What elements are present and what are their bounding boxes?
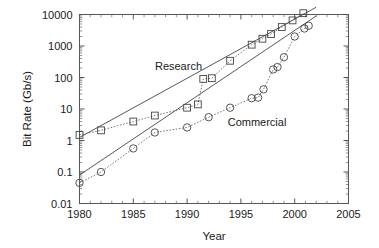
plot-frame	[80, 15, 349, 204]
series-label-research: Research	[155, 60, 202, 72]
y-axis-title: Bit Rate (Gb/s)	[21, 71, 33, 147]
data-point-commercial	[280, 54, 287, 61]
data-point-commercial	[260, 86, 267, 93]
chart-figure: 198019851990199520002005 0.010.111010010…	[0, 0, 379, 248]
x-tick-label: 2000	[282, 208, 306, 220]
data-point-research	[184, 104, 191, 111]
x-tick-label: 1990	[175, 208, 199, 220]
trend-line-commercial	[80, 16, 317, 175]
x-axis-tick-labels: 198019851990199520002005	[67, 208, 360, 220]
data-point-commercial	[97, 168, 104, 175]
x-axis-title: Year	[202, 230, 225, 242]
y-tick-label: 0.01	[51, 198, 72, 210]
y-tick-label: 1	[66, 135, 72, 147]
series-label-commercial: Commercial	[228, 116, 287, 128]
y-tick-label: 100	[54, 72, 72, 84]
y-axis-tick-labels: 0.010.1110100100010000	[42, 9, 73, 210]
y-tick-label: 10	[60, 103, 72, 115]
x-tick-label: 1985	[121, 208, 145, 220]
x-tick-label: 1995	[229, 208, 253, 220]
data-point-commercial	[269, 66, 276, 73]
y-tick-label: 0.1	[57, 166, 72, 178]
data-point-research	[227, 57, 234, 64]
data-point-commercial	[183, 124, 190, 131]
y-tick-label: 10000	[42, 9, 73, 21]
y-tick-label: 1000	[48, 40, 72, 52]
x-tick-label: 2005	[336, 208, 360, 220]
axis-ticks	[80, 15, 349, 204]
series-annotations: ResearchCommercial	[155, 60, 286, 127]
bit-rate-vs-year-chart: 198019851990199520002005 0.010.111010010…	[0, 0, 379, 248]
data-point-research	[98, 127, 105, 134]
data-point-commercial	[305, 22, 312, 29]
trend-lines	[80, 7, 317, 175]
